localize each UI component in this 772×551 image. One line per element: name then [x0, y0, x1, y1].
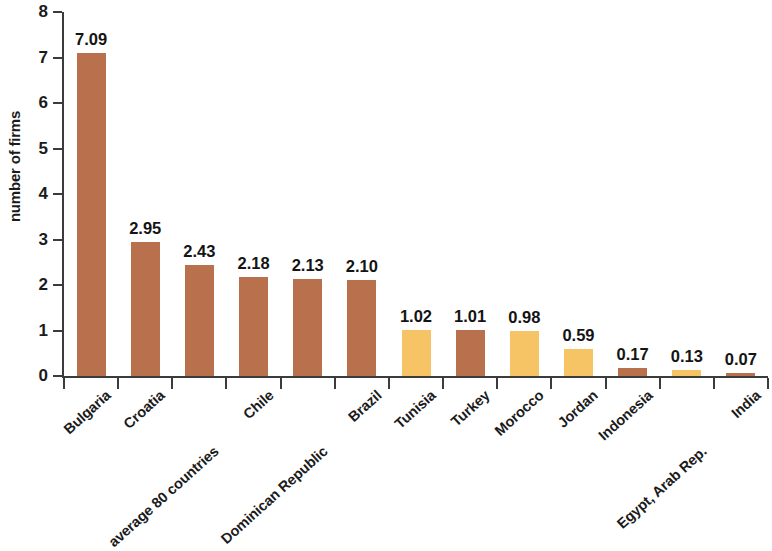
bar: [185, 265, 214, 376]
x-axis-tick: [605, 378, 607, 389]
bar: [672, 370, 701, 376]
x-axis-tick: [550, 378, 552, 389]
bar: [293, 279, 322, 376]
bar-value-label: 0.98: [494, 309, 554, 326]
bar-value-label: 1.02: [386, 308, 446, 325]
bar: [131, 242, 160, 376]
x-axis-tick: [225, 378, 227, 389]
x-axis-tick: [442, 378, 444, 389]
bar-value-label: 2.95: [115, 220, 175, 237]
x-axis-tick: [171, 378, 173, 389]
bar: [77, 53, 106, 376]
bar-value-label: 2.18: [224, 255, 284, 272]
bar-value-label: 0.07: [711, 351, 771, 368]
x-axis-tick: [280, 378, 282, 389]
bar: [347, 280, 376, 376]
bar-value-label: 7.09: [61, 31, 121, 48]
bar: [618, 368, 647, 376]
x-axis-tick: [334, 378, 336, 389]
bar: [564, 349, 593, 376]
x-axis-tick: [767, 378, 769, 389]
x-axis-tick: [496, 378, 498, 389]
bar-value-label: 2.13: [278, 257, 338, 274]
bar: [510, 331, 539, 376]
bar-value-label: 0.17: [603, 346, 663, 363]
x-axis-tick: [63, 378, 65, 389]
bar-value-label: 2.10: [332, 258, 392, 275]
bar-value-label: 0.59: [548, 327, 608, 344]
bar: [456, 330, 485, 376]
bar: [726, 373, 755, 376]
bar: [239, 277, 268, 376]
x-axis-tick: [713, 378, 715, 389]
bar-value-label: 0.13: [657, 348, 717, 365]
x-axis-label: Chile: [147, 387, 277, 506]
bar-value-label: 1.01: [440, 308, 500, 325]
bar-value-label: 2.43: [169, 243, 229, 260]
bar: [402, 330, 431, 376]
x-axis-label: India: [634, 387, 764, 506]
x-axis-tick: [659, 378, 661, 389]
x-axis-tick: [388, 378, 390, 389]
x-axis-tick: [117, 378, 119, 389]
